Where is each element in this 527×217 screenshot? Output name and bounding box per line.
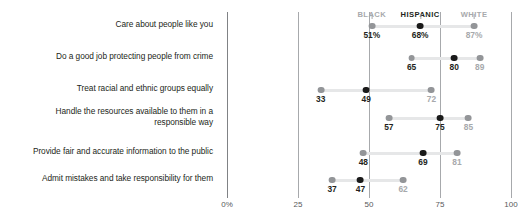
x-axis-tick-label-75: 75 <box>436 200 445 209</box>
range-connector <box>321 89 432 92</box>
data-point-hispanic[interactable] <box>417 23 424 30</box>
row-label: Do a good job protecting people from cri… <box>0 51 213 62</box>
x-axis-tick-label-50: 50 <box>365 200 374 209</box>
range-connector <box>389 117 469 120</box>
data-label-hispanic: 80 <box>450 62 459 72</box>
data-point-hispanic[interactable] <box>437 115 444 122</box>
data-point-white[interactable] <box>428 87 435 94</box>
data-label-white: 87% <box>466 30 483 40</box>
data-point-black[interactable] <box>317 87 324 94</box>
data-label-black: 65 <box>407 62 416 72</box>
x-axis-tick-label-0: 0% <box>221 200 233 209</box>
data-label-black: 37 <box>327 184 336 194</box>
data-point-white[interactable] <box>454 150 461 157</box>
data-label-white: 85 <box>464 122 473 132</box>
data-point-hispanic[interactable] <box>420 150 427 157</box>
data-label-white: 81 <box>452 157 461 167</box>
data-point-hispanic[interactable] <box>363 87 370 94</box>
data-label-white: 62 <box>398 184 407 194</box>
data-point-white[interactable] <box>476 55 483 62</box>
x-axis-tick-label-100: 100 <box>504 200 517 209</box>
dot-plot-chart: BLACKHISPANICWHITE 0%25507510051%68%87%6… <box>0 0 527 217</box>
data-point-black[interactable] <box>360 150 367 157</box>
data-point-hispanic[interactable] <box>357 177 364 184</box>
data-point-black[interactable] <box>385 115 392 122</box>
data-label-black: 33 <box>316 94 325 104</box>
range-connector <box>332 179 403 182</box>
row-label: Treat racial and ethnic groups equally <box>0 83 213 94</box>
row-label: Provide fair and accurate information to… <box>0 146 213 157</box>
data-label-white: 89 <box>475 62 484 72</box>
row-label: Handle the resources available to them i… <box>0 106 213 127</box>
data-point-black[interactable] <box>368 23 375 30</box>
data-label-hispanic: 68% <box>412 30 429 40</box>
data-point-hispanic[interactable] <box>451 55 458 62</box>
range-connector <box>412 57 480 60</box>
data-point-black[interactable] <box>329 177 336 184</box>
x-axis-tick-label-25: 25 <box>294 200 303 209</box>
data-point-white[interactable] <box>471 23 478 30</box>
range-connector <box>363 152 457 155</box>
data-label-hispanic: 75 <box>435 122 444 132</box>
data-label-white: 72 <box>427 94 436 104</box>
data-point-white[interactable] <box>400 177 407 184</box>
data-label-black: 51% <box>363 30 380 40</box>
data-point-black[interactable] <box>408 55 415 62</box>
data-label-hispanic: 49 <box>361 94 370 104</box>
data-label-black: 57 <box>384 122 393 132</box>
data-label-hispanic: 69 <box>418 157 427 167</box>
row-label: Care about people like you <box>0 19 213 30</box>
data-label-hispanic: 47 <box>356 184 365 194</box>
row-label: Admit mistakes and take responsibility f… <box>0 173 213 184</box>
data-point-white[interactable] <box>465 115 472 122</box>
row-label-column: Care about people like youDo a good job … <box>0 0 222 198</box>
data-label-black: 48 <box>359 157 368 167</box>
